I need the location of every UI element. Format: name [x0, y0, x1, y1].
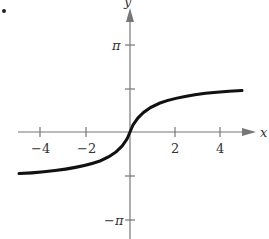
y-axis-arrow-icon — [126, 8, 134, 22]
y-axis-label: y — [123, 0, 132, 9]
y-tick-label-neg-pi: −π — [104, 213, 124, 228]
x-axis-arrow-icon — [242, 128, 256, 136]
x-tick-label: −4 — [31, 141, 50, 156]
x-axis-label: x — [260, 125, 268, 140]
x-tick-label: 4 — [216, 141, 224, 156]
arctan-graph: y x −4 −2 2 4 π −π — [0, 0, 269, 239]
x-tick-label: −2 — [77, 141, 96, 156]
x-tick-label: 2 — [171, 141, 179, 156]
bullet-marker — [2, 9, 6, 13]
y-tick-label-pi: π — [111, 38, 121, 53]
